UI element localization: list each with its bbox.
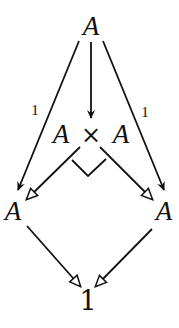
node-right-A: A bbox=[156, 198, 173, 225]
node-left-A: A bbox=[5, 198, 22, 225]
node-top-A: A bbox=[83, 13, 100, 40]
arrow-product-to-right bbox=[100, 147, 152, 199]
diagram-arrows bbox=[0, 0, 179, 328]
product-right-factor: A bbox=[113, 119, 130, 149]
arrow-product-to-left bbox=[27, 147, 80, 199]
label-right-identity: 1 bbox=[141, 104, 149, 121]
arrow-top-to-left bbox=[18, 41, 79, 190]
arrow-top-to-right bbox=[103, 41, 164, 190]
pullback-corner-marker bbox=[72, 159, 106, 176]
product-operator: × bbox=[81, 121, 101, 149]
arrow-left-to-terminal bbox=[27, 226, 80, 286]
node-terminal-1: 1 bbox=[79, 287, 96, 314]
node-product: A × A bbox=[53, 120, 129, 148]
arrow-right-to-terminal bbox=[96, 229, 152, 286]
label-left-identity: 1 bbox=[31, 102, 39, 119]
product-left-factor: A bbox=[53, 119, 70, 149]
